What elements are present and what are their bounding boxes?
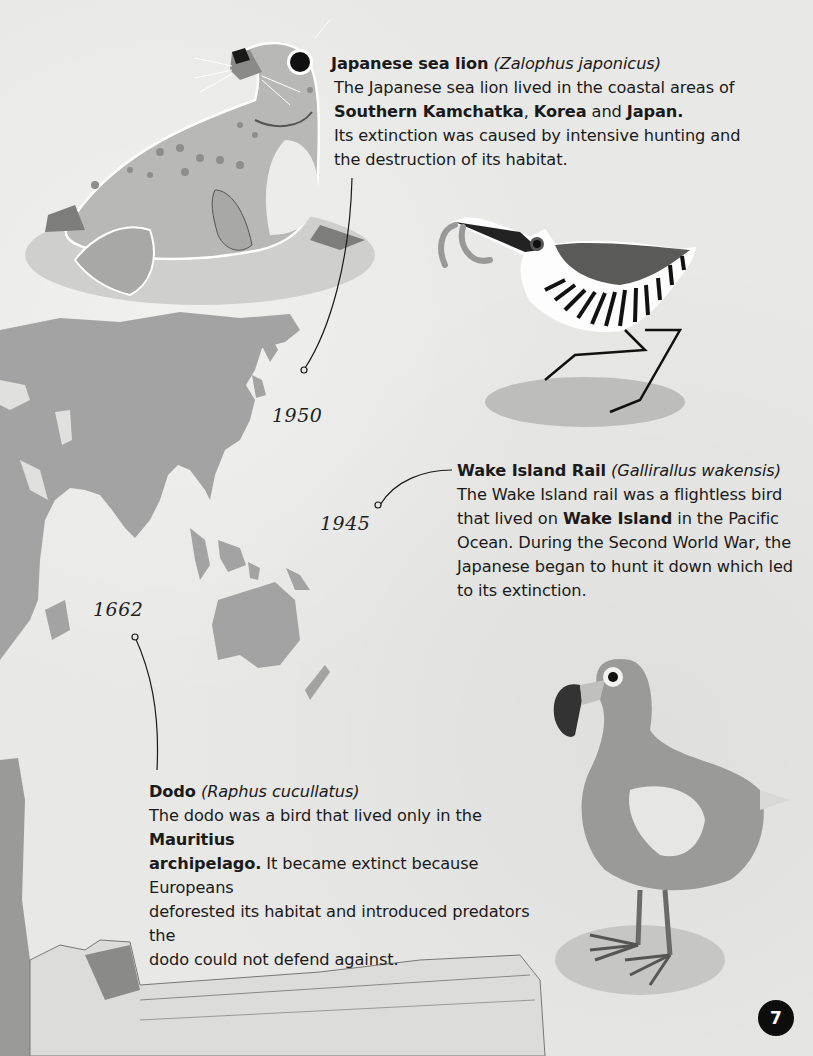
species-description: The Wake Island rail was a flightless bi… bbox=[457, 483, 807, 603]
place-name: Wake Island bbox=[563, 509, 672, 528]
separator: , bbox=[524, 102, 534, 121]
species-entry-japanese-sea-lion: Japanese sea lion (Zalophus japonicus) T… bbox=[331, 52, 751, 172]
world-map-illustration bbox=[0, 312, 330, 700]
scientific-name: (Gallirallus wakensis) bbox=[611, 461, 781, 480]
year-label-wake-island-rail: 1945 bbox=[320, 512, 370, 534]
description-line: that lived on Wake Island in the Pacific bbox=[457, 507, 807, 531]
text: that lived on bbox=[457, 509, 563, 528]
page-number-badge: 7 bbox=[758, 1000, 794, 1036]
year-label-japanese-sea-lion: 1950 bbox=[272, 404, 322, 426]
description-line: archipelago. It became extinct because E… bbox=[149, 852, 549, 900]
species-entry-dodo: Dodo (Raphus cucullatus) The dodo was a … bbox=[149, 780, 549, 972]
place-name: Korea bbox=[534, 102, 587, 121]
description-line: dodo could not defend against. bbox=[149, 948, 549, 972]
place-name: Southern Kamchatka bbox=[334, 102, 524, 121]
species-description: The dodo was a bird that lived only in t… bbox=[149, 804, 549, 972]
common-name: Japanese sea lion bbox=[331, 54, 488, 73]
punctuation: . bbox=[677, 102, 683, 121]
description-line: The dodo was a bird that lived only in t… bbox=[149, 804, 549, 852]
place-name: Japan bbox=[627, 102, 677, 121]
species-heading: Japanese sea lion (Zalophus japonicus) bbox=[331, 52, 751, 76]
scientific-name: (Zalophus japonicus) bbox=[493, 54, 660, 73]
description-line: to its extinction. bbox=[457, 579, 807, 603]
description-line: the destruction of its habitat. bbox=[334, 148, 751, 172]
species-entry-wake-island-rail: Wake Island Rail (Gallirallus wakensis) … bbox=[457, 459, 807, 603]
common-name: Dodo bbox=[149, 782, 196, 801]
year-label-dodo: 1662 bbox=[93, 598, 143, 620]
description-line: The Japanese sea lion lived in the coast… bbox=[334, 76, 751, 100]
description-line: Its extinction was caused by intensive h… bbox=[334, 124, 751, 148]
separator: and bbox=[587, 102, 627, 121]
place-name: Mauritius bbox=[149, 830, 235, 849]
description-line: Ocean. During the Second World War, the bbox=[457, 531, 807, 555]
description-line: Japanese began to hunt it down which led bbox=[457, 555, 807, 579]
description-line: The Wake Island rail was a flightless bi… bbox=[457, 483, 807, 507]
species-description: The Japanese sea lion lived in the coast… bbox=[331, 76, 751, 172]
page-number: 7 bbox=[770, 1008, 782, 1028]
description-line: deforested its habitat and introduced pr… bbox=[149, 900, 549, 948]
dodo-illustration bbox=[554, 659, 790, 995]
species-heading: Wake Island Rail (Gallirallus wakensis) bbox=[457, 459, 807, 483]
wake-island-rail-illustration bbox=[441, 218, 695, 427]
common-name: Wake Island Rail bbox=[457, 461, 606, 480]
description-line: Southern Kamchatka, Korea and Japan. bbox=[334, 100, 751, 124]
text: in the Pacific bbox=[672, 509, 779, 528]
place-name: archipelago. bbox=[149, 854, 261, 873]
species-heading: Dodo (Raphus cucullatus) bbox=[149, 780, 549, 804]
scientific-name: (Raphus cucullatus) bbox=[201, 782, 360, 801]
sea-lion-illustration bbox=[25, 20, 375, 305]
text: The dodo was a bird that lived only in t… bbox=[149, 806, 482, 825]
